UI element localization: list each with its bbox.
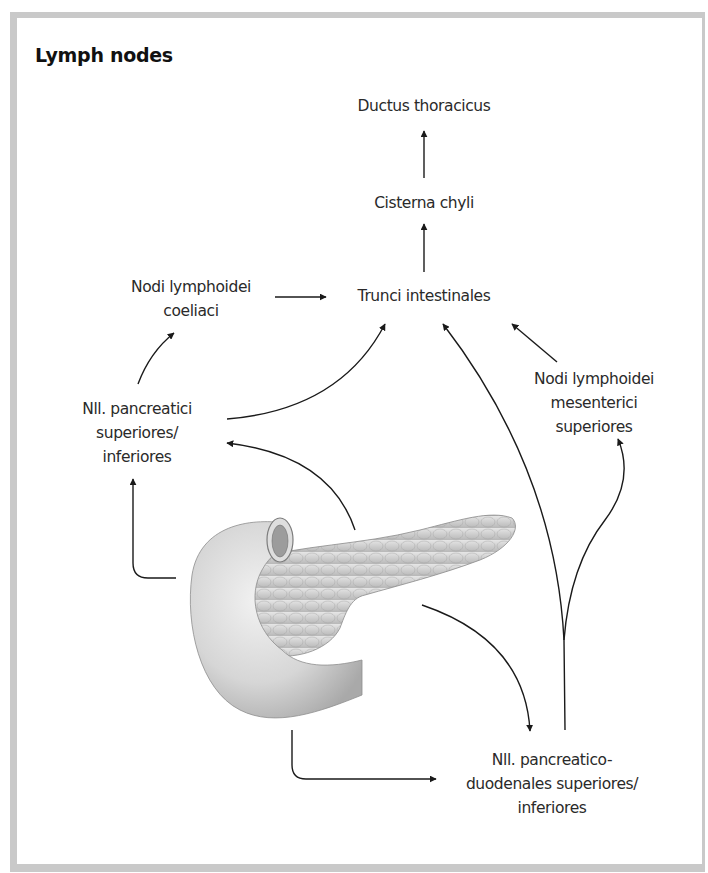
node-ductus-thoracicus: Ductus thoracicus: [358, 94, 491, 118]
node-cisterna-chyli: Cisterna chyli: [374, 191, 474, 215]
arrow-pancreas-to-pancreaticoduodenales: [422, 605, 530, 731]
node-nll-pancreaticoduodenales: Nll. pancreatico- duodenales superiores/…: [466, 748, 638, 820]
node-nll-pancreatici: Nll. pancreatici superiores/ inferiores: [82, 397, 192, 469]
pancreas-illustration: [190, 515, 515, 718]
arrow-pancreatici-to-coeliaci: [138, 333, 174, 384]
arrow-pancreaticoduodenales-to-mesenterici: [564, 439, 624, 640]
arrow-mesenterici-to-trunci: [512, 324, 557, 362]
arrow-pancreas-to-pancreatici-left: [133, 479, 176, 578]
node-nodi-coeliaci: Nodi lymphoidei coeliaci: [131, 275, 251, 323]
arrow-pancreatici-to-trunci: [227, 324, 385, 419]
arrow-pancreas-to-pancreatici-arc: [227, 443, 355, 530]
node-nodi-mesenterici: Nodi lymphoidei mesenterici superiores: [534, 367, 654, 439]
node-trunci-intestinales: Trunci intestinales: [358, 284, 491, 308]
arrow-duodenum-to-pancreaticoduodenales: [292, 730, 436, 779]
